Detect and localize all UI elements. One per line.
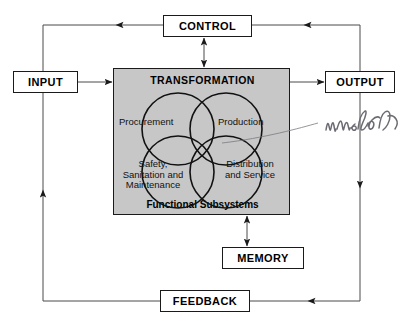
annotation-leader-line bbox=[222, 123, 318, 143]
annotation-layer bbox=[0, 0, 405, 323]
systems-model-diagram: TRANSFORMATION Procurement Production Sa… bbox=[0, 0, 405, 323]
